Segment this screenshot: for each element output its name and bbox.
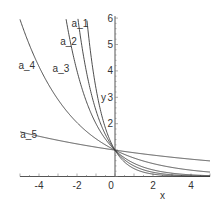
curve-label-a-4: a_4 — [18, 60, 35, 71]
y-tick-label: 6 — [107, 13, 113, 24]
x-tick-label: 4 — [188, 180, 194, 191]
curve-label-a-2: a_2 — [60, 36, 77, 47]
x-tick-label: -2 — [73, 180, 82, 191]
x-tick-label: -4 — [35, 180, 44, 191]
y-tick-label: 4 — [107, 65, 113, 76]
curve-label-a-5: a_5 — [20, 129, 37, 140]
x-tick-label: 2 — [150, 180, 156, 191]
plot-area: -4-202423456xy a_1a_2a_3a_4a_5 — [0, 0, 223, 202]
y-tick-label: 5 — [107, 39, 113, 50]
exponential-decay-chart: -4-202423456xy a_1a_2a_3a_4a_5 — [0, 0, 223, 202]
axes: -4-202423456xy — [20, 13, 210, 201]
y-tick-label: 3 — [107, 92, 113, 103]
curve-a-3 — [66, 19, 210, 175]
x-tick-label: 0 — [108, 180, 114, 191]
y-tick-label: 2 — [107, 118, 113, 129]
curve-labels: a_1a_2a_3a_4a_5 — [18, 18, 88, 140]
y-axis-label: y — [101, 92, 106, 103]
curve-label-a-1: a_1 — [72, 18, 89, 29]
x-axis-label: x — [160, 190, 165, 201]
curve-label-a-3: a_3 — [53, 63, 70, 74]
